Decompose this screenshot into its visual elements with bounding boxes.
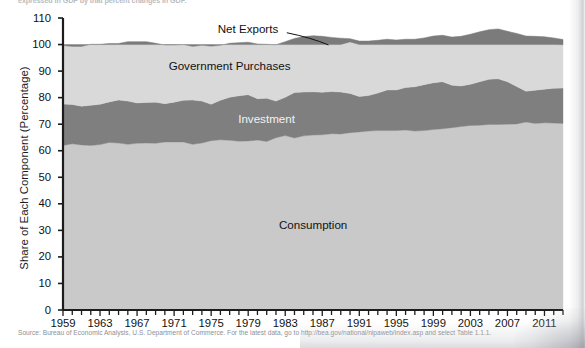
x-tick-label: 1971 <box>154 317 194 329</box>
source-note: Source: Bureau of Economic Analysis, U.S… <box>18 329 491 336</box>
y-tick-label: 90 <box>25 66 51 76</box>
y-tick-label: 50 <box>25 172 51 182</box>
x-tick-label: 1979 <box>228 317 268 329</box>
y-tick-label: 40 <box>25 198 51 208</box>
x-tick-label: 2007 <box>487 317 527 329</box>
y-tick-label: 10 <box>25 278 51 288</box>
x-tick-label: 1995 <box>376 317 416 329</box>
y-tick-label: 30 <box>25 225 51 235</box>
y-tick-label: 0 <box>25 305 51 315</box>
y-tick-label: 110 <box>25 13 51 23</box>
y-tick-label: 80 <box>25 92 51 102</box>
stacked-area-chart: Share of Each Component (Percentage) 010… <box>0 10 585 322</box>
y-tick-label: 70 <box>25 119 51 129</box>
y-tick-label: 100 <box>25 39 51 49</box>
x-tick-label: 1999 <box>413 317 453 329</box>
clipped-caption-text: expressed in GDP by that percent changes… <box>18 0 348 9</box>
series-label-investment: Investment <box>238 112 295 125</box>
x-tick-label: 1991 <box>339 317 379 329</box>
figure-container: expressed in GDP by that percent changes… <box>0 0 585 348</box>
x-tick-label: 1967 <box>117 317 157 329</box>
series-label-consumption: Consumption <box>279 218 347 231</box>
area-consumption <box>63 122 563 310</box>
series-label-net-exports: Net Exports <box>218 22 279 35</box>
series-label-government-purchases: Government Purchases <box>169 59 291 72</box>
x-tick-label: 1975 <box>191 317 231 329</box>
clipped-caption-label: expressed in GDP by that percent changes… <box>18 0 348 5</box>
x-tick-label: 1959 <box>43 317 83 329</box>
x-tick-label: 1987 <box>302 317 342 329</box>
x-tick-label: 2003 <box>450 317 490 329</box>
x-tick-label: 2011 <box>524 317 564 329</box>
y-tick-label: 60 <box>25 145 51 155</box>
x-tick-label: 1963 <box>80 317 120 329</box>
chart-plot-svg <box>0 10 585 322</box>
x-tick-label: 1983 <box>265 317 305 329</box>
area-series-group <box>63 29 563 310</box>
y-tick-label: 20 <box>25 251 51 261</box>
